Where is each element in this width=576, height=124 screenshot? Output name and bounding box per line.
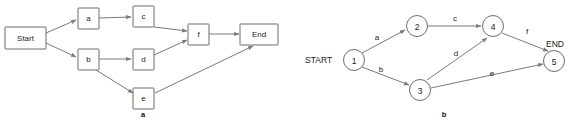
figure-container: Start a c b d e <box>0 0 576 124</box>
node-3[interactable]: 3 <box>410 80 431 101</box>
node-end[interactable]: End <box>240 24 278 45</box>
node-5-label: 5 <box>552 57 557 67</box>
edge-a-c <box>99 17 131 18</box>
node-start-label: Start <box>17 34 35 43</box>
edge-3-4 <box>427 38 487 80</box>
edge-start-a <box>46 20 76 33</box>
edge-1-2 <box>362 30 405 53</box>
edge-label-d: d <box>454 49 458 58</box>
start-label: START <box>305 55 332 65</box>
end-label: END <box>546 39 564 49</box>
edge-label-b: b <box>379 65 384 74</box>
node-4[interactable]: 4 <box>483 16 504 37</box>
node-2-label: 2 <box>415 22 420 32</box>
node-e-label: e <box>141 94 146 103</box>
node-b-label: b <box>86 55 91 64</box>
node-2[interactable]: 2 <box>407 16 428 37</box>
edge-start-b <box>46 43 76 57</box>
edge-label-e: e <box>490 69 495 78</box>
node-4-label: 4 <box>491 22 496 32</box>
edge-d-f <box>154 40 187 55</box>
panel-b-caption: b <box>442 110 447 119</box>
panel-a: Start a c b d e <box>5 6 278 119</box>
activity-network-diagram: Start a c b d e <box>0 0 576 124</box>
edge-3-5 <box>431 64 543 88</box>
panel-b: a b c d e f START END 1 2 3 <box>305 14 565 119</box>
node-3-label: 3 <box>418 86 423 96</box>
node-e[interactable]: e <box>133 88 154 109</box>
node-b[interactable]: b <box>78 49 99 70</box>
panel-b-edge-labels: a b c d e f <box>375 14 529 78</box>
node-1-label: 1 <box>352 56 357 66</box>
node-c-label: c <box>142 12 146 21</box>
edge-label-f: f <box>526 27 529 36</box>
node-f[interactable]: f <box>188 24 209 45</box>
node-a-label: a <box>86 14 91 23</box>
edge-1-3 <box>362 67 409 85</box>
edge-label-c: c <box>453 14 457 23</box>
node-start[interactable]: Start <box>5 27 46 49</box>
node-d[interactable]: d <box>133 49 154 70</box>
panel-a-caption: a <box>141 110 146 119</box>
node-c[interactable]: c <box>133 6 154 27</box>
edge-c-f <box>154 27 187 31</box>
edge-e-end <box>155 46 253 93</box>
node-d-label: d <box>141 55 145 64</box>
edge-4-5 <box>502 33 548 51</box>
edge-label-a: a <box>375 33 380 42</box>
node-5[interactable]: 5 <box>544 51 565 72</box>
node-end-label: End <box>252 30 266 39</box>
node-1[interactable]: 1 <box>344 50 365 71</box>
node-a[interactable]: a <box>78 8 99 29</box>
edge-b-e <box>96 70 133 93</box>
